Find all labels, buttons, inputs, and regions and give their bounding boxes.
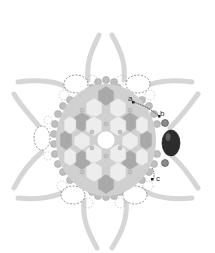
hexagon-body — [56, 84, 156, 196]
label-a: a — [128, 94, 133, 103]
label-b: b — [160, 109, 165, 118]
label-c: c — [156, 174, 160, 183]
beadwork-diagram: a b c — [0, 0, 215, 253]
